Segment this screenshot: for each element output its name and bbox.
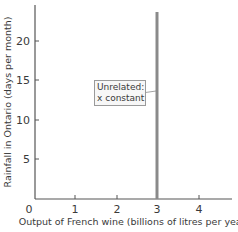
y-tick-label: 10: [16, 114, 30, 127]
x-tick-label: 2: [114, 203, 121, 216]
x-tick-label: 3: [154, 203, 161, 216]
y-tick-label: 15: [16, 74, 30, 87]
x-tick-label: 0: [26, 203, 33, 216]
x-tick-label: 1: [72, 203, 79, 216]
chart-canvas: 20 15 10 5 0 1 2 3 4 Output of French wi…: [0, 0, 238, 232]
x-tick-label: 4: [196, 203, 203, 216]
y-axis-label: Rainfall in Ontario (days per month): [2, 17, 13, 188]
x-axis-label: Output of French wine (billions of litre…: [19, 216, 238, 227]
annotation-box: Unrelated: x constant: [94, 80, 146, 106]
y-tick-label: 20: [16, 35, 30, 48]
y-tick-label: 5: [23, 153, 30, 166]
annotation-line-1: Unrelated:: [97, 82, 143, 93]
annotation-line-2: x constant: [97, 93, 143, 104]
